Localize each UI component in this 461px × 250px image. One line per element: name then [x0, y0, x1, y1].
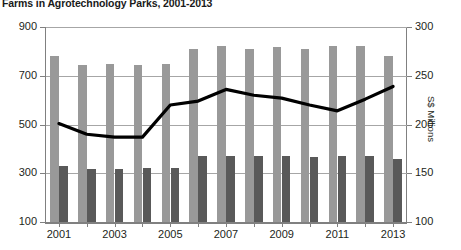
y-tick-label-left: 900	[0, 21, 37, 32]
y-tick-right	[407, 76, 412, 77]
y-tick-label-right: 300	[415, 21, 455, 32]
x-tick-label: 2001	[36, 229, 82, 240]
x-tick-label: 2009	[259, 229, 305, 240]
x-tick	[198, 222, 199, 227]
y-tick-label-right: 150	[415, 167, 455, 178]
x-tick	[59, 222, 60, 227]
y-tick-right	[407, 222, 412, 223]
x-tick	[170, 222, 171, 227]
y-tick-right	[407, 27, 412, 28]
y-tick-label-right: 100	[415, 216, 455, 227]
x-tick	[365, 222, 366, 227]
y-axis-right-title: S$ Millions	[426, 96, 437, 142]
x-tick-label: 2003	[92, 229, 138, 240]
x-tick	[337, 222, 338, 227]
chart-container: Farms in Agrotechnology Parks, 2001-2013…	[0, 0, 461, 250]
x-tick-label: 2011	[314, 229, 360, 240]
y-tick-label-right: 250	[415, 70, 455, 81]
x-tick	[282, 222, 283, 227]
y-tick-label-left: 700	[0, 70, 37, 81]
x-tick	[115, 222, 116, 227]
line-path	[59, 86, 393, 137]
y-tick-label-left: 100	[0, 216, 37, 227]
x-tick	[226, 222, 227, 227]
chart-title: Farms in Agrotechnology Parks, 2001-2013	[2, 0, 457, 9]
x-tick-label: 2013	[370, 229, 416, 240]
y-tick-label-left: 300	[0, 167, 37, 178]
y-tick-right	[407, 125, 412, 126]
x-tick-label: 2005	[147, 229, 193, 240]
x-tick-label: 2007	[203, 229, 249, 240]
x-tick	[142, 222, 143, 227]
y-tick-label-left: 500	[0, 119, 37, 130]
x-tick	[87, 222, 88, 227]
x-tick	[254, 222, 255, 227]
x-tick	[393, 222, 394, 227]
output-value-line	[45, 27, 407, 222]
line-series-layer	[45, 27, 407, 222]
y-tick-right	[407, 173, 412, 174]
y-tick-left	[40, 222, 45, 223]
x-tick	[310, 222, 311, 227]
